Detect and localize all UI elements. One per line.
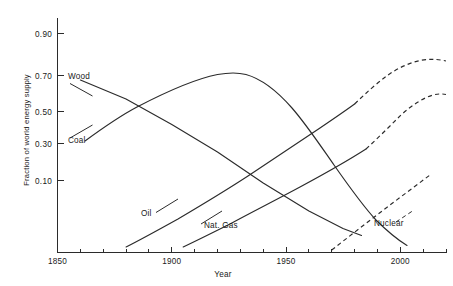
- chart-canvas: 0.90 0.70 0.50 0.30 0.10: [0, 0, 453, 286]
- series-label-oil: Oil: [141, 209, 152, 218]
- x-axis-title: Year: [214, 270, 232, 279]
- leader-line-nuclear: [396, 210, 414, 222]
- series-line-coal: [85, 73, 407, 246]
- x-tick-label-0: 1850: [48, 257, 67, 266]
- series-label-natgas: Nat. Gas: [204, 221, 238, 230]
- energy-supply-chart: 0.90 0.70 0.50 0.30 0.10: [0, 0, 453, 286]
- x-tick-label-2: 1950: [276, 257, 295, 266]
- x-tick-label-1: 1900: [162, 257, 181, 266]
- series-line-natgas: [183, 149, 366, 247]
- leader-line-oil: [156, 199, 178, 213]
- y-tick-label-2: 0.50: [35, 108, 52, 117]
- y-tick-label-3: 0.30: [35, 140, 52, 149]
- y-tick-label-1: 0.70: [35, 72, 52, 81]
- axes: [58, 18, 447, 253]
- x-axis-tick-labels: 1850 1900 1950 2000: [48, 257, 410, 266]
- leader-line-wood: [70, 84, 93, 97]
- series-line-oil-projection: [355, 59, 446, 104]
- series-label-wood: Wood: [68, 72, 90, 81]
- y-axis-title: Fraction of world energy supply: [22, 74, 31, 186]
- y-axis-tick-labels: 0.90 0.70 0.50 0.30 0.10: [35, 30, 52, 186]
- y-axis-ticks: [58, 34, 64, 181]
- series-line-natgas-projection: [366, 94, 446, 149]
- series-line-nuclear: [332, 175, 430, 250]
- y-tick-label-4: 0.10: [35, 177, 52, 186]
- x-tick-label-3: 2000: [391, 257, 410, 266]
- y-tick-label-0: 0.90: [35, 30, 52, 39]
- x-axis-ticks: [58, 247, 447, 253]
